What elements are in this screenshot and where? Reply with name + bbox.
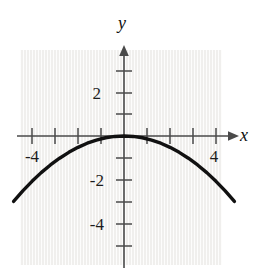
graph-canvas bbox=[0, 0, 256, 272]
x-tick-label-4: 4 bbox=[210, 148, 219, 165]
y-tick-label-neg2: -2 bbox=[90, 172, 104, 189]
y-tick-label-2: 2 bbox=[93, 85, 102, 102]
y-axis-label: y bbox=[118, 14, 126, 32]
y-tick-label-neg4: -4 bbox=[90, 216, 104, 233]
figure-root: ) bbox=[0, 0, 256, 272]
y-axis-arrowhead bbox=[119, 45, 129, 56]
x-axis-arrowhead bbox=[228, 131, 239, 141]
x-tick-label-neg4: -4 bbox=[25, 148, 39, 165]
x-axis-label: x bbox=[240, 126, 248, 144]
